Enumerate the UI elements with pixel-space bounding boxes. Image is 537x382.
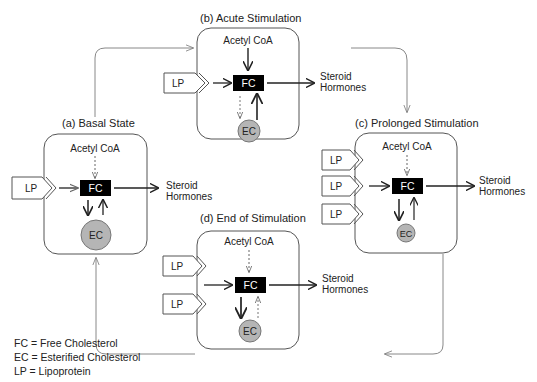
ec-label: EC: [242, 126, 256, 137]
lipoprotein-tag: LP: [164, 73, 209, 93]
svg-text:LP: LP: [172, 78, 185, 89]
legend-item-lp: LP = Lipoprotein: [14, 364, 140, 378]
state-basal: (a) Basal State Acetyl CoA LP FC Steroid…: [12, 117, 212, 254]
fc-label: FC: [401, 180, 415, 192]
lipoprotein-tag: LP: [322, 204, 363, 224]
lipoprotein-tag: LP: [163, 294, 206, 314]
legend-item-fc: FC = Free Cholesterol: [14, 336, 140, 350]
svg-text:LP: LP: [330, 155, 343, 166]
lipoprotein-tag: LP: [322, 150, 363, 170]
legend-item-ec: EC = Esterified Cholesterol: [14, 350, 140, 364]
lipoprotein-tag: LP: [163, 256, 206, 276]
state-title: (b) Acute Stimulation: [200, 12, 302, 24]
svg-text:Hormones: Hormones: [166, 191, 212, 202]
svg-text:Hormones: Hormones: [322, 284, 368, 295]
steroid-label: Steroid: [320, 71, 352, 82]
acetyl-coa-label: Acetyl CoA: [223, 35, 273, 46]
svg-text:LP: LP: [25, 183, 38, 194]
svg-text:Hormones: Hormones: [320, 82, 366, 93]
arrow-c-to-d: [385, 254, 443, 354]
ec-label: EC: [243, 326, 257, 337]
svg-text:LP: LP: [171, 261, 184, 272]
steroid-label: Steroid: [479, 175, 511, 186]
state-end: (d) End of Stimulation Acetyl CoA LP LP …: [163, 212, 368, 349]
arrow-b-to-c: [351, 48, 407, 112]
state-title: (a) Basal State: [62, 117, 135, 129]
fc-label: FC: [242, 77, 256, 89]
ec-label: EC: [400, 229, 413, 239]
fc-label: FC: [244, 279, 258, 291]
steroid-label: Steroid: [322, 273, 354, 284]
lipoprotein-tag: LP: [12, 177, 56, 199]
svg-text:LP: LP: [171, 299, 184, 310]
ec-label: EC: [89, 230, 103, 241]
steroid-label: Steroid: [166, 180, 198, 191]
svg-text:LP: LP: [330, 181, 343, 192]
state-title: (c) Prolonged Stimulation: [355, 117, 479, 129]
acetyl-coa-label: Acetyl CoA: [382, 141, 432, 152]
lipoprotein-tag: LP: [322, 176, 363, 196]
state-title: (d) End of Stimulation: [200, 212, 306, 224]
svg-text:LP: LP: [330, 209, 343, 220]
state-prolonged: (c) Prolonged Stimulation Acetyl CoA LP …: [322, 117, 525, 253]
fc-label: FC: [89, 182, 103, 194]
svg-text:Hormones: Hormones: [479, 186, 525, 197]
cholesterol-state-diagram: (a) Basal State Acetyl CoA LP FC Steroid…: [0, 0, 537, 382]
state-acute: (b) Acute Stimulation Acetyl CoA LP FC S…: [164, 12, 366, 142]
legend: FC = Free Cholesterol EC = Esterified Ch…: [14, 336, 140, 378]
acetyl-coa-label: Acetyl CoA: [224, 236, 274, 247]
acetyl-coa-label: Acetyl CoA: [70, 143, 120, 154]
